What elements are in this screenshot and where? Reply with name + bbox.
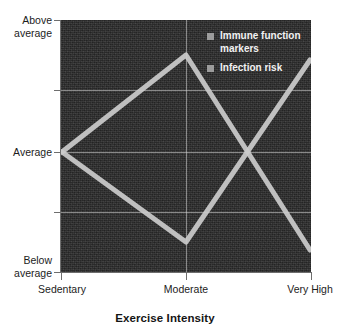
x-axis-tick [186,272,187,280]
x-axis-tick [61,272,62,280]
legend-item-immune-function-markers[interactable]: Immune function markers [207,30,311,55]
legend-item-infection-risk[interactable]: Infection risk [207,62,311,75]
y-axis-tick [54,20,61,21]
y-axis-line [60,20,61,273]
x-axis-title: Exercise Intensity [0,312,330,324]
y-axis-tick [54,212,61,213]
legend-label: Immune function markers [220,30,311,55]
y-axis-label-average: Average [0,146,52,159]
legend-swatch-icon [207,65,214,72]
series-line-infection-risk [62,60,310,242]
y-axis-tick [54,272,61,273]
y-axis-label-above-average: Above average [0,14,52,40]
plot-area: Immune function markers Infection risk [61,20,311,272]
x-axis-label-sedentary: Sedentary [17,283,107,296]
x-axis-label-moderate: Moderate [141,283,231,296]
y-axis-label-below-average: Below average [0,254,52,280]
series-line-immune-function-markers [62,55,310,250]
legend: Immune function markers Infection risk [207,30,311,82]
legend-label: Infection risk [220,62,282,75]
y-axis-tick [54,152,61,153]
x-axis-tick [311,272,312,280]
legend-swatch-icon [207,33,214,40]
y-axis-tick [54,90,61,91]
x-axis-label-very-high: Very High [265,283,337,296]
